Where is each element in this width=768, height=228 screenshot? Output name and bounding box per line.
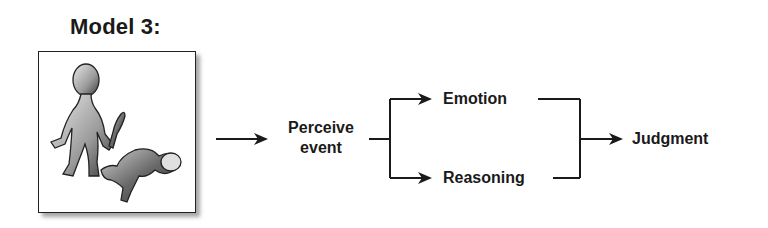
perceive-line2: event [276,138,366,158]
node-reasoning: Reasoning [443,168,525,188]
node-judgment: Judgment [632,129,708,149]
flow-connectors [0,0,768,228]
node-perceive-event: Perceive event [276,118,366,158]
perceive-line1: Perceive [276,118,366,138]
node-emotion: Emotion [443,89,507,109]
